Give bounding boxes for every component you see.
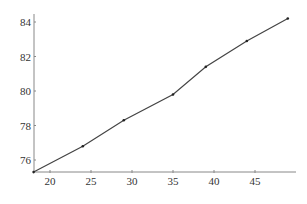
data-series [32,17,289,173]
data-point [123,119,126,122]
x-tick-label: 30 [127,175,139,187]
x-tick-label: 40 [209,175,221,187]
x-tick-label: 20 [45,175,57,187]
y-tick-label: 76 [20,154,32,166]
data-point [287,17,290,20]
y-tick-label: 80 [20,85,32,97]
data-point [246,40,249,43]
data-point [32,171,35,174]
x-axis-ticks: 202530354045 [45,170,262,187]
data-point [205,66,208,69]
y-tick-label: 82 [20,51,31,63]
series-line [34,19,288,173]
data-point [82,145,85,148]
y-tick-label: 78 [20,120,32,132]
x-tick-label: 45 [250,175,262,187]
x-tick-label: 25 [86,175,98,187]
y-tick-label: 84 [20,16,32,28]
line-chart: 202530354045 7678808284 [0,0,307,204]
axes [34,14,296,172]
x-tick-label: 35 [168,175,180,187]
data-point [172,93,175,96]
